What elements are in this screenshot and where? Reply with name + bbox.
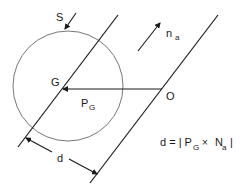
- diagram-canvas: S G O P G n a d d = | P G × N a |: [0, 0, 243, 188]
- label-s: S: [56, 11, 63, 23]
- s-arrow: [65, 13, 76, 29]
- label-p-subscript: G: [89, 103, 95, 112]
- line-through-o: [90, 15, 218, 183]
- sphere-circle: [13, 31, 123, 141]
- distance-formula: d = | P G × N a |: [160, 136, 233, 152]
- label-g: G: [51, 76, 60, 88]
- label-n-subscript: a: [175, 33, 180, 42]
- label-d: d: [57, 152, 63, 164]
- label-o: O: [166, 90, 175, 102]
- label-p: P: [81, 97, 88, 109]
- formula-lhs: d = | P: [160, 136, 192, 148]
- d-dimension-arrow-right: [69, 159, 97, 174]
- formula-p-subscript: G: [193, 143, 199, 152]
- formula-n-subscript: a: [222, 143, 227, 152]
- line-through-g: [18, 15, 118, 147]
- label-n: n: [166, 27, 172, 39]
- na-direction-arrow: [138, 23, 160, 51]
- formula-times: ×: [202, 137, 208, 148]
- formula-rhs: |: [230, 136, 233, 148]
- d-dimension-arrow-left: [26, 138, 52, 152]
